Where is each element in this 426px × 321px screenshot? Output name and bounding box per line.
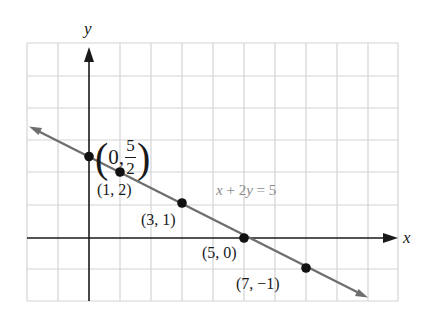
point-label-7-neg1: (7, −1) (236, 276, 280, 292)
y-axis-label: y (84, 20, 92, 37)
fraction-denominator: 2 (126, 159, 135, 179)
coordinate-plane (0, 0, 426, 321)
fraction-numerator: 5 (126, 136, 135, 156)
line-arrow-right-icon (355, 289, 368, 298)
eq-x: x (216, 182, 223, 198)
y-axis-arrow-icon (84, 47, 94, 62)
p0-x: 0, (108, 145, 124, 170)
point-3-1 (177, 198, 187, 208)
line-arrow-left-icon (29, 127, 42, 136)
fraction-bar (125, 157, 136, 158)
eq-y: y (246, 182, 253, 198)
eq-equals: = (253, 182, 269, 198)
open-paren: ( (95, 137, 108, 179)
point-label-5-0: (5, 0) (202, 245, 237, 261)
fraction-5-2: 5 2 (125, 136, 136, 179)
y-axis (84, 47, 94, 301)
point-label-3-1: (3, 1) (141, 212, 176, 228)
point-label-1-2: (1, 2) (97, 182, 132, 198)
grid (27, 43, 398, 301)
equation-label: x + 2y = 5 (216, 183, 276, 198)
line-x-plus-2y-eq-5 (29, 127, 368, 298)
close-paren: ) (137, 137, 150, 179)
point-5-0 (239, 233, 249, 243)
x-axis-arrow-icon (383, 233, 398, 243)
eq-plus: + (223, 182, 239, 198)
point-label-0-5-2: ( 0, 5 2 ) (95, 136, 150, 179)
eq-five: 5 (269, 182, 277, 198)
point-0-5-2 (84, 152, 94, 162)
point-7-neg1 (301, 263, 311, 273)
x-axis-label: x (403, 229, 411, 246)
